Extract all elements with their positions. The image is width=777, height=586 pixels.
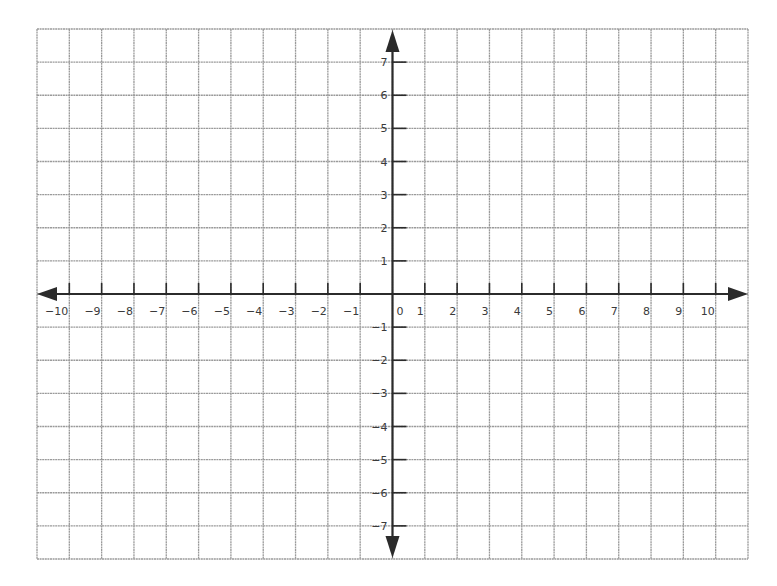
x-axis-left-arrow-icon (37, 287, 57, 301)
y-tick-label: −4 (371, 421, 387, 434)
y-tick-label: −1 (371, 321, 387, 334)
x-tick-label: 5 (546, 305, 553, 318)
x-tick-label: −1 (343, 305, 359, 318)
x-tick-label: 7 (611, 305, 618, 318)
x-tick-label: −7 (149, 305, 165, 318)
x-tick-label: −5 (214, 305, 230, 318)
x-axis-ticks: −10−9−8−7−6−5−4−3−2−1012345678910 (45, 283, 716, 318)
x-tick-label: −10 (45, 305, 68, 318)
x-tick-label: −8 (117, 305, 133, 318)
x-tick-label: 3 (481, 305, 488, 318)
x-tick-label: 8 (643, 305, 650, 318)
y-axis-up-arrow-icon (386, 30, 400, 52)
y-tick-label: 1 (381, 255, 388, 268)
y-tick-label: 2 (381, 222, 388, 235)
x-tick-label: 1 (417, 305, 424, 318)
y-tick-label: −2 (371, 354, 387, 367)
x-tick-label: 2 (449, 305, 456, 318)
x-tick-label: 0 (397, 305, 404, 318)
axes (37, 30, 748, 558)
y-tick-label: 7 (381, 56, 388, 69)
y-tick-label: 5 (381, 122, 388, 135)
y-tick-label: −3 (371, 387, 387, 400)
y-tick-label: −7 (371, 520, 387, 533)
x-tick-label: 10 (701, 305, 715, 318)
x-tick-label: −2 (311, 305, 327, 318)
x-tick-label: −4 (246, 305, 262, 318)
x-tick-label: 9 (675, 305, 682, 318)
x-tick-label: −9 (84, 305, 100, 318)
y-tick-label: −5 (371, 454, 387, 467)
x-axis-right-arrow-icon (728, 287, 748, 301)
y-tick-label: 6 (381, 89, 388, 102)
y-tick-label: −6 (371, 487, 387, 500)
x-tick-label: −3 (278, 305, 294, 318)
x-tick-label: −6 (181, 305, 197, 318)
y-tick-label: 3 (381, 189, 388, 202)
x-tick-label: 6 (578, 305, 585, 318)
x-tick-label: 4 (514, 305, 521, 318)
coordinate-plane: −10−9−8−7−6−5−4−3−2−1012345678910 −7−6−5… (0, 0, 777, 586)
y-axis-down-arrow-icon (386, 536, 400, 558)
y-tick-label: 4 (381, 156, 388, 169)
